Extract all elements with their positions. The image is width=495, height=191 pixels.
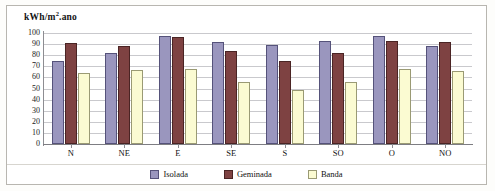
bar[interactable] — [131, 70, 143, 144]
chart-legend: IsoladaGeminadaBanda — [6, 167, 487, 181]
bar[interactable] — [65, 43, 77, 144]
bar-group — [205, 33, 259, 144]
bar-group — [312, 33, 366, 144]
legend-divider — [7, 164, 486, 165]
bar[interactable] — [159, 36, 171, 144]
y-axis-tick-label: 0 — [14, 140, 40, 148]
bar[interactable] — [292, 90, 304, 144]
bar[interactable] — [266, 45, 278, 144]
x-axis-tick-label: E — [151, 148, 205, 160]
bar[interactable] — [238, 82, 250, 144]
bar[interactable] — [332, 53, 344, 144]
y-axis-tick-label: 50 — [14, 85, 40, 93]
y-axis-tick-label: 10 — [14, 129, 40, 137]
bar[interactable] — [373, 36, 385, 144]
x-axis-tick-label: O — [365, 148, 419, 160]
x-axis-tick-label: S — [258, 148, 312, 160]
y-axis-tick-label: 70 — [14, 62, 40, 70]
bar[interactable] — [439, 42, 451, 144]
y-axis-tick-label: 40 — [14, 96, 40, 104]
legend-swatch-icon — [224, 170, 233, 179]
bar-group — [365, 33, 419, 144]
legend-label: Banda — [321, 169, 343, 179]
legend-item[interactable]: Isolada — [150, 169, 188, 179]
y-axis-tick-label: 20 — [14, 118, 40, 126]
bar-group — [44, 33, 98, 144]
bar-group — [151, 33, 205, 144]
y-axis-tick-label: 100 — [14, 29, 40, 37]
legend-item[interactable]: Banda — [308, 169, 343, 179]
y-axis-tick-label: 30 — [14, 107, 40, 115]
bar-group — [258, 33, 312, 144]
bar[interactable] — [78, 73, 90, 144]
bar[interactable] — [319, 41, 331, 144]
axis-title: kWh/m2.ano — [24, 10, 77, 22]
legend-swatch-icon — [150, 170, 159, 179]
bar[interactable] — [452, 71, 464, 144]
x-axis-tick-label: N — [44, 148, 98, 160]
bar[interactable] — [185, 69, 197, 144]
x-axis-tick-label: NE — [98, 148, 152, 160]
legend-swatch-icon — [308, 170, 317, 179]
y-axis-tick-label: 90 — [14, 40, 40, 48]
bar[interactable] — [212, 42, 224, 144]
bar[interactable] — [386, 41, 398, 144]
bar[interactable] — [399, 69, 411, 144]
x-axis-line — [43, 144, 473, 145]
x-axis-tick-label: NO — [419, 148, 473, 160]
y-axis-tick-label: 60 — [14, 73, 40, 81]
x-axis-tick-label: SE — [205, 148, 259, 160]
legend-item[interactable]: Geminada — [224, 169, 272, 179]
bar[interactable] — [118, 46, 130, 144]
bar[interactable] — [105, 53, 117, 144]
legend-label: Geminada — [237, 169, 272, 179]
chart-screenshot: kWh/m2.ano 1009080706050403020100 NNEESE… — [0, 0, 495, 191]
legend-label: Isolada — [163, 169, 188, 179]
axis-title-tail: .ano — [59, 12, 77, 22]
axis-title-base: kWh/m — [24, 12, 56, 22]
y-axis-tick-label: 80 — [14, 51, 40, 59]
x-axis-labels: NNEESESSOONO — [44, 148, 472, 160]
bar-group — [419, 33, 473, 144]
bar[interactable] — [52, 61, 64, 144]
x-axis-tick-label: SO — [312, 148, 366, 160]
bar[interactable] — [279, 61, 291, 144]
bar[interactable] — [225, 51, 237, 144]
bar[interactable] — [345, 82, 357, 144]
bar[interactable] — [426, 46, 438, 144]
bar-groups — [44, 33, 472, 144]
bar[interactable] — [172, 37, 184, 144]
bar-group — [98, 33, 152, 144]
